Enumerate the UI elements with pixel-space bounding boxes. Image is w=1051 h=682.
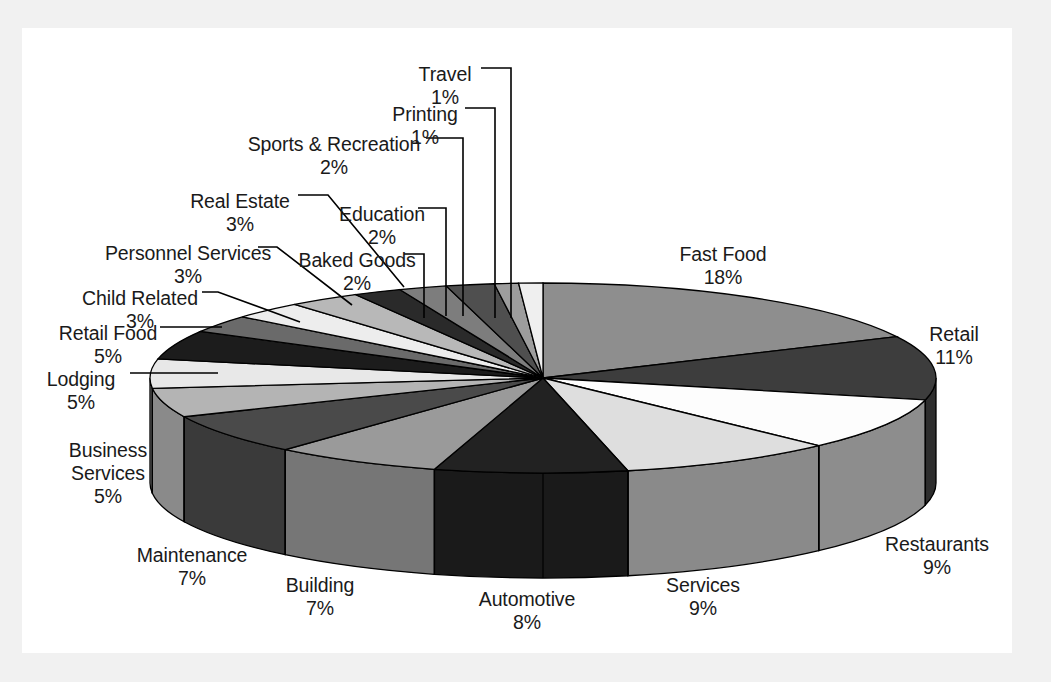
slice-label-building-pct: 7% — [262, 597, 378, 620]
slice-label-services-name: Services — [666, 574, 740, 596]
slice-label-sports-recreation-pct: 2% — [234, 156, 434, 179]
slice-label-business-services-pct: 5% — [50, 485, 166, 508]
slice-label-sports-recreation: Sports & Recreation 2% — [234, 133, 434, 179]
slice-label-education: Education 2% — [322, 203, 442, 249]
slice-label-fast-food-pct: 18% — [650, 266, 796, 289]
slice-label-business-services-name-line2: Services — [50, 462, 166, 485]
slice-label-personnel-services-name: Personnel Services — [105, 242, 271, 264]
slice-label-retail-food: Retail Food 5% — [44, 322, 172, 368]
slice-label-fast-food-name: Fast Food — [680, 243, 767, 265]
slice-label-business-services-name-line1: Business — [69, 439, 147, 461]
slice-label-printing-name: Printing — [392, 103, 457, 125]
slice-label-retail-pct: 11% — [902, 346, 1006, 369]
pie-side-building — [285, 450, 434, 575]
slice-label-lodging-pct: 5% — [30, 391, 132, 414]
slice-label-services: Services 9% — [644, 574, 762, 620]
slice-label-fast-food: Fast Food 18% — [650, 243, 796, 289]
slice-label-baked-goods: Baked Goods 2% — [292, 249, 422, 295]
slice-label-personnel-services-pct: 3% — [98, 265, 278, 288]
slice-label-real-estate-name: Real Estate — [190, 190, 290, 212]
slice-label-retail-name: Retail — [929, 323, 978, 345]
slice-label-real-estate: Real Estate 3% — [170, 190, 310, 236]
slice-label-business-services: Business Services 5% — [50, 439, 166, 508]
slice-label-restaurants: Restaurants 9% — [862, 533, 1012, 579]
slice-label-sports-recreation-name: Sports & Recreation — [248, 133, 421, 155]
slice-label-maintenance: Maintenance 7% — [112, 544, 272, 590]
slice-label-lodging-name: Lodging — [47, 368, 116, 390]
slice-label-retail: Retail 11% — [902, 323, 1006, 369]
chart-canvas: Travel 1% Printing 1% Sports & Recreatio… — [22, 28, 1012, 653]
slice-label-restaurants-pct: 9% — [862, 556, 1012, 579]
slice-label-automotive: Automotive 8% — [452, 588, 602, 634]
slice-label-baked-goods-pct: 2% — [292, 272, 422, 295]
slice-label-education-pct: 2% — [322, 226, 442, 249]
pie-top-faces — [150, 283, 936, 473]
slice-label-lodging: Lodging 5% — [30, 368, 132, 414]
pie-side-automotive — [434, 469, 627, 578]
slice-label-child-related-name: Child Related — [82, 287, 198, 309]
slice-label-personnel-services: Personnel Services 3% — [98, 242, 278, 288]
slice-label-baked-goods-name: Baked Goods — [298, 249, 415, 271]
page-root: Travel 1% Printing 1% Sports & Recreatio… — [0, 0, 1051, 682]
slice-label-building: Building 7% — [262, 574, 378, 620]
slice-label-retail-food-pct: 5% — [44, 345, 172, 368]
slice-label-travel-name: Travel — [419, 63, 472, 85]
slice-label-education-name: Education — [339, 203, 425, 225]
slice-label-restaurants-name: Restaurants — [885, 533, 989, 555]
slice-label-services-pct: 9% — [644, 597, 762, 620]
slice-label-maintenance-name: Maintenance — [137, 544, 248, 566]
slice-label-automotive-name: Automotive — [479, 588, 576, 610]
slice-label-automotive-pct: 8% — [452, 611, 602, 634]
slice-label-real-estate-pct: 3% — [170, 213, 310, 236]
slice-label-building-name: Building — [286, 574, 355, 596]
slice-label-retail-food-name: Retail Food — [59, 322, 158, 344]
slice-label-maintenance-pct: 7% — [112, 567, 272, 590]
